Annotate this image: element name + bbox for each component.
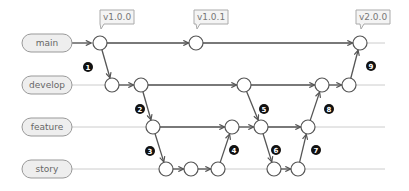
- step-marker-8: 8: [324, 104, 334, 114]
- svg-text:3: 3: [148, 148, 153, 156]
- commit-node-d4: [315, 78, 329, 92]
- commit-node-f2: [225, 120, 239, 134]
- branch-tracks: [70, 43, 385, 169]
- edge-s5-f4: [300, 134, 307, 162]
- svg-text:story: story: [36, 164, 59, 174]
- svg-text:develop: develop: [29, 80, 65, 90]
- commit-node-m3: [353, 36, 367, 50]
- tag-v1.0.1: v1.0.1: [194, 10, 228, 29]
- tag-v2.0.0: v2.0.0: [356, 10, 390, 29]
- git-flow-diagram: maindevelopfeaturestory v1.0.0v1.0.1v2.0…: [0, 0, 409, 191]
- commit-node-m2: [189, 36, 203, 50]
- step-marker-4: 4: [229, 145, 239, 155]
- commit-node-f1: [146, 120, 160, 134]
- svg-text:v2.0.0: v2.0.0: [359, 12, 388, 22]
- edge-f3-s4: [263, 134, 272, 162]
- step-marker-1: 1: [83, 62, 93, 72]
- step-marker-3: 3: [145, 146, 155, 156]
- branch-label-main: main: [22, 34, 72, 52]
- edge-s3-f2: [220, 134, 229, 162]
- version-tags: v1.0.0v1.0.1v2.0.0: [100, 10, 390, 29]
- svg-text:v1.0.0: v1.0.0: [103, 12, 132, 22]
- commit-node-m1: [93, 36, 107, 50]
- step-marker-6: 6: [271, 145, 281, 155]
- svg-text:6: 6: [274, 147, 279, 155]
- commit-node-f4: [301, 120, 315, 134]
- commit-node-f3: [254, 120, 268, 134]
- svg-text:2: 2: [138, 106, 143, 114]
- svg-text:9: 9: [369, 63, 374, 71]
- commit-node-s4: [267, 162, 281, 176]
- commit-node-d2: [134, 78, 148, 92]
- branch-label-feature: feature: [22, 118, 72, 136]
- step-markers: 123456789: [83, 61, 376, 156]
- commit-node-s2: [184, 162, 198, 176]
- svg-text:4: 4: [232, 147, 237, 155]
- branch-label-story: story: [22, 160, 72, 178]
- svg-text:7: 7: [314, 147, 319, 155]
- step-marker-7: 7: [311, 145, 321, 155]
- edge-m1-d1: [102, 50, 110, 78]
- svg-text:1: 1: [86, 64, 91, 72]
- step-marker-2: 2: [135, 104, 145, 114]
- edge-f1-s1: [155, 134, 164, 162]
- edge-f4-d4: [310, 92, 319, 120]
- edge-d3-f3: [247, 91, 259, 120]
- commit-node-d3: [237, 78, 251, 92]
- commit-node-s3: [211, 162, 225, 176]
- svg-text:main: main: [36, 38, 59, 48]
- commit-node-s5: [291, 162, 305, 176]
- branch-label-develop: develop: [22, 76, 72, 94]
- commit-node-d5: [342, 78, 356, 92]
- branch-labels: maindevelopfeaturestory: [22, 34, 72, 178]
- commit-node-s1: [159, 162, 173, 176]
- svg-text:feature: feature: [31, 122, 64, 132]
- svg-text:5: 5: [262, 106, 267, 114]
- edge-d5-m3: [351, 50, 358, 78]
- step-marker-9: 9: [366, 61, 376, 71]
- edge-d2-f1: [143, 92, 151, 120]
- step-marker-5: 5: [259, 104, 269, 114]
- tag-v1.0.0: v1.0.0: [100, 10, 134, 29]
- commit-node-d1: [105, 78, 119, 92]
- svg-text:v1.0.1: v1.0.1: [197, 12, 225, 22]
- svg-text:8: 8: [327, 106, 332, 114]
